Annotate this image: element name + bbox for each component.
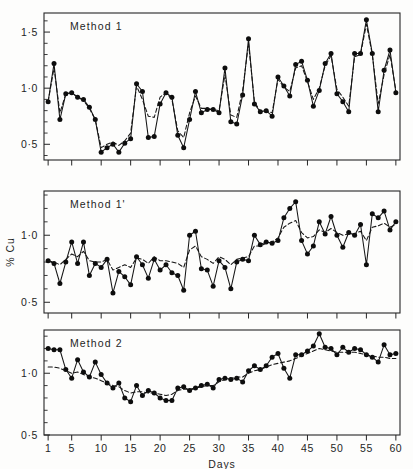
data-point-marker	[281, 366, 286, 371]
data-point-marker	[110, 290, 115, 295]
data-point-marker	[140, 89, 145, 94]
data-point-marker	[287, 94, 292, 99]
data-point-marker	[281, 215, 286, 220]
data-point-marker	[81, 239, 86, 244]
x-axis-title: Days	[208, 458, 236, 469]
data-point-marker	[158, 395, 163, 400]
data-point-marker	[116, 381, 121, 386]
y-tick-label: 1·0	[21, 367, 38, 379]
data-point-marker	[252, 233, 257, 238]
y-tick-label: 1·0	[21, 82, 38, 94]
panel-title-2: Method 1'	[70, 198, 126, 210]
data-point-marker	[217, 110, 222, 115]
data-point-marker	[376, 215, 381, 220]
data-point-marker	[181, 288, 186, 293]
data-point-marker	[317, 219, 322, 224]
data-point-marker	[134, 383, 139, 388]
data-point-marker	[393, 351, 398, 356]
x-tick-label: 50	[330, 442, 343, 454]
y-tick-label: 0·5	[21, 138, 38, 150]
data-point-marker	[205, 268, 210, 273]
data-point-marker	[122, 274, 127, 279]
x-tick-label: 45	[301, 442, 314, 454]
y-axis-title: % Cu	[4, 237, 16, 266]
data-point-marker	[317, 331, 322, 336]
data-point-marker	[75, 261, 80, 266]
data-point-marker	[323, 345, 328, 350]
data-point-marker	[140, 262, 145, 267]
data-point-marker	[334, 352, 339, 357]
data-point-marker	[346, 109, 351, 114]
data-point-marker	[329, 214, 334, 219]
data-point-marker	[187, 233, 192, 238]
data-point-marker	[57, 117, 62, 122]
data-point-marker	[181, 145, 186, 150]
series-line-observed	[48, 20, 396, 152]
data-point-marker	[199, 110, 204, 115]
data-point-marker	[46, 346, 51, 351]
data-point-marker	[193, 229, 198, 234]
data-point-marker	[340, 345, 345, 350]
data-point-marker	[234, 122, 239, 127]
y-tick-label: 0·5	[21, 296, 38, 308]
data-point-marker	[222, 265, 227, 270]
data-point-marker	[128, 399, 133, 404]
data-point-marker	[358, 347, 363, 352]
data-point-marker	[69, 239, 74, 244]
data-point-marker	[246, 36, 251, 41]
x-tick-label: 40	[272, 442, 285, 454]
data-point-marker	[175, 133, 180, 138]
data-point-marker	[116, 150, 121, 155]
data-point-marker	[93, 360, 98, 365]
series-line-smoothed	[48, 24, 396, 147]
data-point-marker	[169, 398, 174, 403]
data-point-marker	[387, 227, 392, 232]
data-point-marker	[228, 119, 233, 124]
data-point-marker	[311, 104, 316, 109]
data-point-marker	[99, 265, 104, 270]
data-point-marker	[275, 351, 280, 356]
x-tick-label: 60	[389, 442, 402, 454]
data-point-marker	[69, 376, 74, 381]
data-point-marker	[293, 199, 298, 204]
data-point-marker	[146, 135, 151, 140]
data-point-marker	[240, 379, 245, 384]
data-point-marker	[181, 384, 186, 389]
data-point-marker	[299, 238, 304, 243]
x-tick-label: 55	[360, 442, 373, 454]
data-point-marker	[211, 386, 216, 391]
data-point-marker	[152, 134, 157, 139]
data-point-marker	[175, 273, 180, 278]
panel-title-3: Method 2	[70, 337, 123, 349]
x-tick-label: 15	[124, 442, 137, 454]
data-point-marker	[358, 222, 363, 227]
x-tick-label: 5	[68, 442, 74, 454]
x-tick-label: 20	[154, 442, 167, 454]
data-point-marker	[217, 377, 222, 382]
data-point-marker	[199, 266, 204, 271]
data-point-marker	[382, 209, 387, 214]
data-point-marker	[52, 347, 57, 352]
data-point-marker	[158, 268, 163, 273]
data-point-marker	[311, 344, 316, 349]
x-tick-label: 25	[183, 442, 196, 454]
data-point-marker	[299, 59, 304, 64]
data-point-marker	[311, 243, 316, 248]
y-tick-label: 1·0	[21, 229, 38, 241]
data-point-marker	[105, 145, 110, 150]
data-point-marker	[52, 61, 57, 66]
data-point-marker	[164, 398, 169, 403]
data-point-marker	[364, 262, 369, 267]
data-point-marker	[228, 286, 233, 291]
data-point-marker	[382, 342, 387, 347]
data-point-marker	[293, 352, 298, 357]
data-point-marker	[99, 372, 104, 377]
data-point-marker	[387, 48, 392, 53]
data-point-marker	[376, 360, 381, 365]
data-point-marker	[57, 347, 62, 352]
data-point-marker	[75, 357, 80, 362]
x-tick-label: 35	[242, 442, 255, 454]
data-point-marker	[334, 233, 339, 238]
data-point-marker	[340, 245, 345, 250]
data-point-marker	[234, 260, 239, 265]
